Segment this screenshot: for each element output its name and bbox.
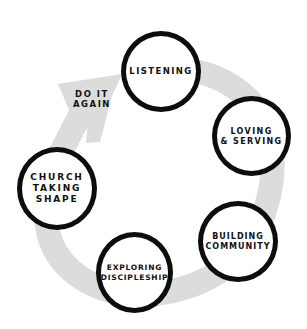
cycle-diagram: LISTENING LOVING & SERVING BUILDING COMM… [0, 0, 307, 329]
loop-label: DO IT AGAIN [73, 89, 111, 109]
node-label: LISTENING [129, 66, 192, 77]
node-building-community: BUILDING COMMUNITY [198, 201, 278, 282]
node-label: CHURCH TAKING SHAPE [30, 172, 83, 206]
node-listening: LISTENING [121, 31, 201, 112]
node-exploring-discipleship: EXPLORING DISCIPLESHIP [96, 232, 173, 313]
node-label: EXPLORING DISCIPLESHIP [101, 263, 169, 282]
node-loving-serving: LOVING & SERVING [212, 96, 291, 176]
node-church-taking-shape: CHURCH TAKING SHAPE [17, 147, 97, 230]
node-label: BUILDING COMMUNITY [205, 232, 270, 252]
node-label: LOVING & SERVING [220, 125, 282, 147]
